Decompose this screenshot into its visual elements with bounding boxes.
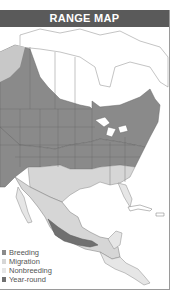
legend-item-year-round: Year-round: [2, 275, 52, 284]
map-legend: Breeding Migration Nonbreeding Year-roun…: [2, 248, 52, 284]
range-map-panel: RANGE MAP: [0, 10, 170, 290]
legend-label: Migration: [9, 257, 40, 266]
nonbreeding-swatch: [2, 268, 6, 273]
migration-swatch: [2, 259, 6, 264]
legend-item-migration: Migration: [2, 257, 52, 266]
legend-label: Year-round: [9, 275, 46, 284]
range-map-title: RANGE MAP: [0, 10, 169, 27]
legend-label: Breeding: [9, 248, 39, 257]
legend-label: Nonbreeding: [9, 266, 52, 275]
legend-item-nonbreeding: Nonbreeding: [2, 266, 52, 275]
year-round-swatch: [2, 277, 6, 282]
breeding-swatch: [2, 250, 6, 255]
legend-item-breeding: Breeding: [2, 248, 52, 257]
hispaniola: [156, 213, 164, 216]
